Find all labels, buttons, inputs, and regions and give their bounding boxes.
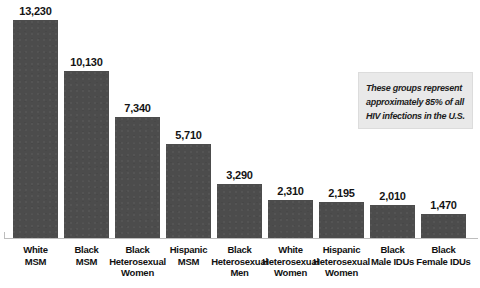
- bar-group: 5,710HispanicMSM: [166, 144, 211, 238]
- bar-category-label-line: Black: [410, 244, 477, 256]
- bar[interactable]: [268, 200, 313, 238]
- bar-value-label: 5,710: [157, 129, 220, 141]
- bar-group: 13,230WhiteMSM: [13, 20, 58, 238]
- bar-value-label: 7,340: [106, 102, 169, 114]
- bar-group: 2,195HispanicHeterosexualWomen: [319, 202, 364, 238]
- bar-group: 2,310WhiteHeterosexualWomen: [268, 200, 313, 238]
- bar-group: 1,470BlackFemale IDUs: [421, 214, 466, 238]
- bar-value-label: 10,130: [55, 56, 118, 68]
- bar-chart: 13,230WhiteMSM10,130BlackMSM7,340BlackHe…: [0, 0, 480, 288]
- bar[interactable]: [166, 144, 211, 238]
- x-axis-line: [4, 238, 478, 239]
- bar[interactable]: [217, 184, 262, 238]
- bar-group: 10,130BlackMSM: [64, 71, 109, 238]
- bar-category-label-line: Female IDUs: [410, 256, 477, 268]
- bar-value-label: 3,290: [208, 169, 271, 181]
- bar[interactable]: [115, 117, 160, 238]
- bar[interactable]: [13, 20, 58, 238]
- bar[interactable]: [421, 214, 466, 238]
- plot-area: 13,230WhiteMSM10,130BlackMSM7,340BlackHe…: [0, 0, 480, 288]
- bar-group: 2,010BlackMale IDUs: [370, 205, 415, 238]
- axis-origin-tick: [4, 232, 5, 239]
- callout-text: These groups represent approximately 85%…: [366, 81, 468, 123]
- bar-category-label: BlackFemale IDUs: [410, 244, 477, 267]
- bar[interactable]: [64, 71, 109, 238]
- bar-category-label-line: Women: [308, 267, 375, 279]
- bar-value-label: 1,470: [412, 199, 475, 211]
- bar-category-label-line: Women: [104, 267, 171, 279]
- bar-value-label: 13,230: [4, 5, 67, 17]
- bar[interactable]: [370, 205, 415, 238]
- bar-group: 7,340BlackHeterosexualWomen: [115, 117, 160, 238]
- callout-box: These groups represent approximately 85%…: [358, 72, 473, 129]
- bar[interactable]: [319, 202, 364, 238]
- bar-group: 3,290BlackHeterosexualMen: [217, 184, 262, 238]
